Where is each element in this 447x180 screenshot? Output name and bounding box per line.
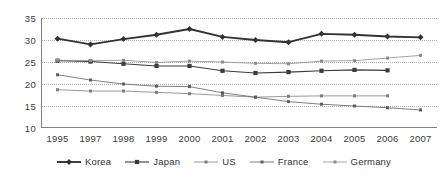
legend-label: France — [278, 156, 309, 167]
series-france — [56, 73, 422, 111]
legend-swatch-diamond-icon — [56, 157, 82, 167]
series-germany — [56, 54, 422, 65]
legend-swatch-small-square-icon — [322, 157, 348, 167]
legend-label: Japan — [153, 156, 180, 167]
legend-swatch-small-square-icon — [249, 157, 275, 167]
legend-label: Korea — [85, 156, 111, 167]
legend-swatch-square-icon — [124, 157, 150, 167]
line-chart: 101520253035 199519971998199920002001200… — [0, 0, 447, 180]
legend-item-germany[interactable]: Germany — [322, 156, 391, 167]
legend-item-us[interactable]: US — [193, 156, 236, 167]
chart-legend: KoreaJapanUSFranceGermany — [0, 156, 447, 167]
legend-label: Germany — [351, 156, 391, 167]
legend-swatch-small-square-icon — [193, 157, 219, 167]
series-layer — [0, 0, 447, 180]
legend-label: US — [222, 156, 236, 167]
series-korea — [55, 26, 424, 47]
legend-item-korea[interactable]: Korea — [56, 156, 111, 167]
legend-item-japan[interactable]: Japan — [124, 156, 180, 167]
legend-item-france[interactable]: France — [249, 156, 309, 167]
